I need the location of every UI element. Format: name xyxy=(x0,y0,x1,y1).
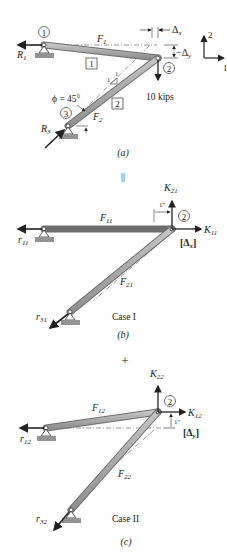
F22-label: F22 xyxy=(117,468,132,481)
slope-triangle-icon xyxy=(110,78,117,84)
R1-label: R1 xyxy=(16,49,27,62)
pin-2 xyxy=(156,56,160,60)
K12-label: K12 xyxy=(187,407,202,420)
dx-label: Δx xyxy=(172,24,182,37)
r11-label: r11 xyxy=(18,234,28,247)
r31-label: r31 xyxy=(36,311,47,324)
node-2c-label: 2 xyxy=(168,397,173,407)
phi-label: ϕ = 45° xyxy=(52,94,81,104)
dof-b-label: [Δx] xyxy=(180,237,196,250)
slope-rise-label: 1 xyxy=(115,71,118,77)
panel-c: 2 1" F12 F22 K12 K22 r12 r32 [Δy] Case I… xyxy=(20,368,202,548)
ground-1 xyxy=(35,53,54,58)
equals-sign: || xyxy=(121,171,125,182)
member-2b xyxy=(70,229,172,312)
unit-disp-b-label: 1" xyxy=(159,201,166,209)
node-3-label: 3 xyxy=(64,109,69,119)
case-I-label: Case I xyxy=(112,312,136,322)
member-2c xyxy=(71,412,158,510)
R3-label: R3 xyxy=(40,123,51,136)
axis-2-label: 2 xyxy=(208,30,213,40)
caption-c: (c) xyxy=(120,536,132,548)
F12-label: F12 xyxy=(91,402,106,415)
truss-diagram: 1 2 3 1 2 F1 F2 R1 R3 ϕ = 45° 10 kips Δx… xyxy=(0,0,227,560)
K22-label: K22 xyxy=(149,368,164,381)
node-2-label: 2 xyxy=(167,64,172,74)
slope-run-label: 1 xyxy=(107,77,110,83)
r32-label: r32 xyxy=(36,513,47,526)
member-2-label: 2 xyxy=(115,99,120,109)
panel-b: 2 1" F11 F21 K11 K21 r11 r31 [Δx] Case I… xyxy=(18,182,217,341)
support-3-icon xyxy=(63,127,73,134)
dof-c-label: [Δy] xyxy=(183,427,199,440)
panel-a: 1 2 3 1 2 F1 F2 R1 R3 ϕ = 45° 10 kips Δx… xyxy=(16,24,227,159)
F21-label: F21 xyxy=(119,276,133,289)
K21-label: K21 xyxy=(163,182,178,195)
member-1-label: 1 xyxy=(89,59,94,69)
F1-label: F1 xyxy=(96,33,107,46)
support-3b-icon xyxy=(65,313,75,320)
unit-disp-c-label: 1" xyxy=(174,418,181,426)
caption-a: (a) xyxy=(117,147,129,159)
caption-b: (b) xyxy=(117,329,129,341)
F2-label: F2 xyxy=(92,111,103,124)
node-1-label: 1 xyxy=(42,28,47,38)
load-label: 10 kips xyxy=(146,92,174,102)
plus-sign: + xyxy=(121,353,128,368)
F11-label: F11 xyxy=(99,212,113,225)
r12-label: r12 xyxy=(20,433,31,446)
K11-label: K11 xyxy=(203,224,217,237)
phi-pointer-icon xyxy=(77,105,85,111)
member-2 xyxy=(68,58,158,126)
dy-label: −Δy xyxy=(176,47,192,60)
case-II-label: Case II xyxy=(112,514,139,524)
node-2b-label: 2 xyxy=(182,212,187,222)
ground-3 xyxy=(59,134,78,139)
axis-1-label: 1 xyxy=(223,63,227,73)
member-1 xyxy=(44,45,158,58)
